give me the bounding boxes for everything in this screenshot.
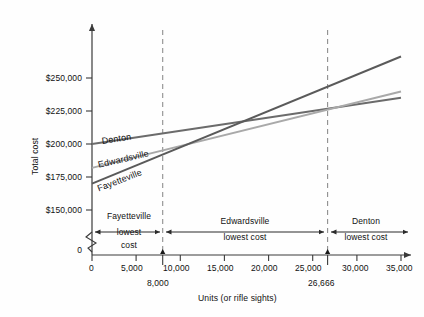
range-label-edwardsville-line2: lowest cost — [192, 232, 298, 242]
y-tick-label-175000: $175,000 — [36, 172, 82, 182]
y-tick-label-225000: $225,000 — [36, 106, 82, 116]
y-tick-marks — [86, 78, 92, 210]
x-tick-label-20000: 20,000 — [251, 263, 278, 273]
range-label-fayetteville-line2: lowest — [96, 227, 162, 237]
range-label-denton-line1: Denton — [326, 216, 406, 226]
chart-canvas: Total cost $250,000 $225,000 $200,000 $1… — [0, 0, 424, 317]
x-tick-label-15000: 15,000 — [207, 263, 234, 273]
range-label-fayetteville-line3: cost — [96, 240, 162, 250]
range-label-denton-line2: lowest cost — [322, 232, 410, 242]
range-label-fayetteville-line1: Fayetteville — [96, 211, 162, 221]
x-tick-label-25000: 25,000 — [295, 263, 322, 273]
marker-guidelines — [160, 30, 330, 265]
y-tick-label-250000: $250,000 — [36, 73, 82, 83]
x-tick-label-35000: 35,000 — [386, 263, 413, 273]
y-axis-origin-label: 0 — [62, 245, 82, 255]
x-tick-label-0: 0 — [89, 263, 94, 273]
y-tick-label-150000: $150,000 — [36, 205, 82, 215]
y-tick-label-200000: $200,000 — [36, 139, 82, 149]
line-fayetteville — [92, 57, 401, 184]
x-tick-label-10000: 10,000 — [163, 263, 190, 273]
x-tick-label-5000: 5,000 — [121, 263, 143, 273]
marker-label-8000: 8,000 — [147, 278, 169, 288]
y-axis-break-icon — [86, 232, 96, 252]
axis-pointer-26666 — [325, 249, 330, 254]
x-tick-label-30000: 30,000 — [342, 263, 369, 273]
marker-label-26666: 26,666 — [308, 278, 335, 288]
x-tick-marks — [92, 255, 401, 261]
range-label-edwardsville-line1: Edwardsville — [192, 216, 298, 226]
series-lines — [92, 57, 401, 184]
x-axis-label: Units (or rifle sights) — [198, 293, 277, 303]
